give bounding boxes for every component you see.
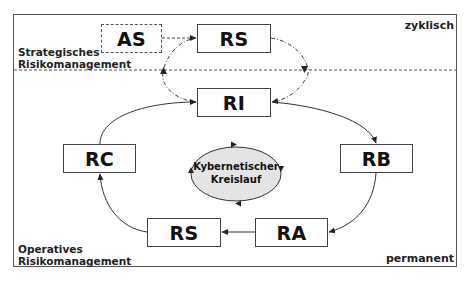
node-rc: RC [63, 144, 136, 173]
node-ra: RA [255, 218, 328, 247]
node-ri: RI [197, 88, 271, 117]
node-rs-operative: RS [147, 218, 221, 247]
arrow-rc-to-ri [100, 102, 196, 144]
cybernetic-cycle-label-line1: Kybernetischer [191, 161, 281, 174]
node-rs-strategic: RS [197, 24, 271, 53]
strategic-label-line2: Risikomanagement [18, 58, 131, 71]
cybernetic-cycle-label: Kybernetischer Kreislauf [191, 161, 281, 186]
node-rb: RB [340, 144, 413, 173]
arrow-rb-to-ra [329, 173, 376, 232]
operative-label-line2: Risikomanagement [18, 255, 131, 268]
cyclic-label: zyklisch [405, 19, 454, 32]
cybernetic-cycle-label-line2: Kreislauf [191, 174, 281, 187]
node-as: AS [101, 24, 162, 53]
permanent-label: permanent [386, 252, 454, 265]
arrow-ri-to-rb [272, 102, 376, 143]
risk-management-diagram: zyklisch permanent Strategisches Risikom… [0, 0, 471, 282]
arrow-rs-to-rc [100, 174, 147, 232]
